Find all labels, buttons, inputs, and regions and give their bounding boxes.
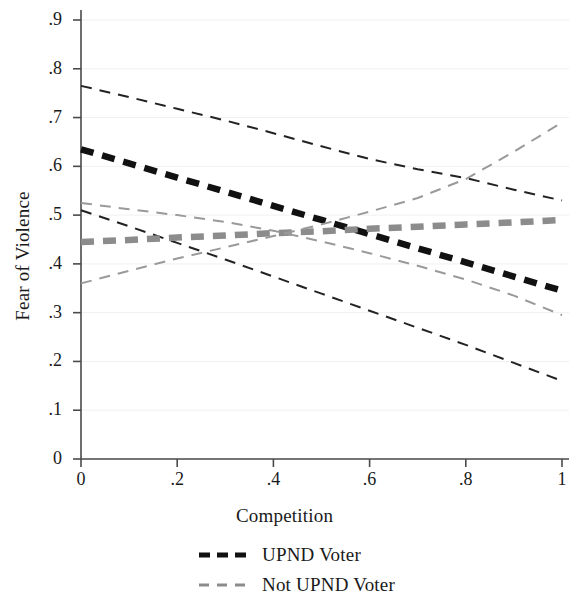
y-axis-tick-label: .9 bbox=[22, 10, 62, 28]
y-axis-tick-label: .3 bbox=[22, 303, 62, 321]
legend-item: Not UPND Voter bbox=[0, 570, 569, 600]
x-axis-tick-label: 1 bbox=[542, 470, 569, 488]
y-axis-tick-label: .7 bbox=[22, 108, 62, 126]
chart-legend: UPND VoterNot UPND Voter bbox=[0, 540, 569, 600]
series-line bbox=[81, 149, 562, 290]
x-axis-tick-label: .8 bbox=[446, 470, 486, 488]
x-axis-tick-label: .6 bbox=[350, 470, 390, 488]
y-axis-tick-label: .1 bbox=[22, 400, 62, 418]
y-axis-tick-label: .2 bbox=[22, 351, 62, 369]
x-axis-title: Competition bbox=[0, 505, 569, 527]
y-axis-tick-label: .6 bbox=[22, 156, 62, 174]
series-line bbox=[81, 86, 562, 201]
x-axis-tick-label: .4 bbox=[253, 470, 293, 488]
chart-figure: Fear of Violence 0.1.2.3.4.5.6.7.8.9 0.2… bbox=[0, 0, 569, 602]
legend-item: UPND Voter bbox=[0, 540, 569, 570]
y-axis-tick-label: 0 bbox=[22, 449, 62, 467]
y-axis-tick-label: .5 bbox=[22, 205, 62, 223]
y-axis-tick-label: .4 bbox=[22, 254, 62, 272]
legend-label: UPND Voter bbox=[262, 544, 361, 566]
x-axis-ticks bbox=[81, 459, 562, 467]
x-axis-tick-label: .2 bbox=[157, 470, 197, 488]
x-axis-tick-label: 0 bbox=[61, 470, 101, 488]
y-axis-tick-label: .8 bbox=[22, 59, 62, 77]
legend-swatch bbox=[198, 548, 250, 562]
y-axis-ticks bbox=[73, 20, 81, 459]
data-series-group bbox=[81, 86, 562, 381]
legend-label: Not UPND Voter bbox=[262, 574, 395, 596]
legend-swatch bbox=[198, 578, 250, 592]
